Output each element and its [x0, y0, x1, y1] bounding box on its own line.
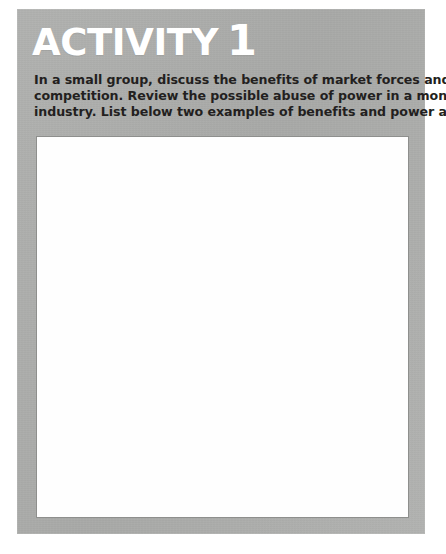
- answer-box[interactable]: [36, 136, 409, 518]
- answer-box-writing-area[interactable]: [37, 137, 408, 517]
- instruction-line-2: competition. Review the possible abuse o…: [34, 88, 415, 104]
- activity-instructions: In a small group, discuss the benefits o…: [34, 72, 415, 121]
- activity-title-word: ACTIVITY: [32, 21, 218, 64]
- activity-title: ACTIVITY1: [32, 19, 257, 64]
- instruction-line-3: industry. List below two examples of ben…: [34, 104, 415, 120]
- activity-panel: ACTIVITY1 In a small group, discuss the …: [17, 9, 425, 534]
- instruction-line-1: In a small group, discuss the benefits o…: [34, 72, 415, 88]
- activity-title-number: 1: [227, 15, 257, 65]
